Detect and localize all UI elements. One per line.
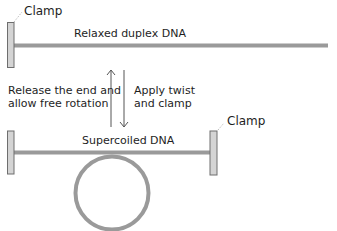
clamp-top-left	[8, 23, 15, 68]
clamp-leader-right	[218, 123, 224, 130]
supercoiled-dna-label: Supercoiled DNA	[82, 134, 174, 147]
twist-label-line1: Apply twist	[134, 84, 195, 97]
twist-label-line2: and clamp	[134, 97, 192, 110]
relaxed-dna-strand	[14, 44, 328, 48]
release-label-line2: allow free rotation	[8, 97, 108, 110]
clamp-leader-top	[14, 12, 22, 22]
clamp-bottom-right	[210, 131, 217, 175]
release-label-line1: Release the end and	[8, 84, 121, 97]
supercoil-loop	[76, 157, 149, 230]
clamp-label-right: Clamp	[227, 115, 265, 128]
clamp-label-top: Clamp	[24, 5, 62, 18]
twist-arrow-down-icon	[120, 70, 128, 127]
relaxed-dna-label: Relaxed duplex DNA	[74, 27, 186, 40]
clamp-bottom-left	[8, 131, 15, 174]
supercoiled-dna-strand	[14, 151, 210, 155]
